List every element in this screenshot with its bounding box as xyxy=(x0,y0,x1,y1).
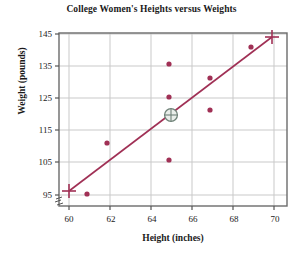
scatter-plot-canvas xyxy=(0,0,303,255)
chart-figure: College Women's Heights versus Weights W… xyxy=(0,0,303,255)
data-point xyxy=(207,107,212,112)
data-point xyxy=(104,140,109,145)
data-point xyxy=(84,191,89,196)
data-point xyxy=(207,75,212,80)
data-point xyxy=(166,157,171,162)
line-endpoint-plus-left xyxy=(62,184,76,198)
highlighted-point-crosshair-icon xyxy=(165,109,178,122)
data-point xyxy=(248,44,253,49)
data-point xyxy=(166,61,171,66)
data-point xyxy=(166,94,171,99)
line-endpoint-plus-right xyxy=(265,30,279,44)
